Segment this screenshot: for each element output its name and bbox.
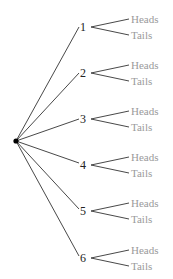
edge-root-to-4: [16, 141, 79, 163]
edge-1-to-heads: [91, 19, 129, 27]
edge-3-to-tails: [91, 119, 129, 127]
edge-1-to-tails: [91, 27, 129, 35]
outcome-heads-label: Heads: [131, 13, 159, 25]
outcome-heads-label: Heads: [131, 151, 159, 163]
edge-2-to-tails: [91, 73, 129, 81]
edge-5-to-heads: [91, 203, 129, 211]
outcome-tails-label: Tails: [131, 121, 152, 133]
outcome-tails-label: Tails: [131, 29, 152, 41]
die-face-label: 5: [80, 204, 86, 218]
outcome-heads-label: Heads: [131, 59, 159, 71]
edge-4-to-tails: [91, 165, 129, 173]
outcome-tails-label: Tails: [131, 213, 152, 225]
edge-2-to-heads: [91, 65, 129, 73]
edge-6-to-heads: [91, 250, 129, 258]
tree-nodes: 1HeadsTails2HeadsTails3HeadsTails4HeadsT…: [80, 13, 159, 272]
outcome-heads-label: Heads: [131, 197, 159, 209]
die-face-label: 6: [80, 251, 86, 265]
edge-3-to-heads: [91, 111, 129, 119]
die-face-label: 1: [80, 20, 86, 34]
edge-6-to-tails: [91, 258, 129, 266]
tree-diagram: 1HeadsTails2HeadsTails3HeadsTails4HeadsT…: [0, 0, 173, 279]
outcome-tails-label: Tails: [131, 167, 152, 179]
outcome-heads-label: Heads: [131, 105, 159, 117]
outcome-tails-label: Tails: [131, 260, 152, 272]
die-face-label: 4: [80, 158, 86, 172]
edge-5-to-tails: [91, 211, 129, 219]
outcome-heads-label: Heads: [131, 244, 159, 256]
outcome-tails-label: Tails: [131, 75, 152, 87]
die-face-label: 3: [80, 112, 86, 126]
root-node: [13, 138, 18, 143]
tree-edges: [16, 19, 129, 266]
edge-root-to-3: [16, 119, 79, 141]
die-face-label: 2: [80, 66, 86, 80]
edge-4-to-heads: [91, 157, 129, 165]
edge-root-to-1: [16, 27, 79, 141]
